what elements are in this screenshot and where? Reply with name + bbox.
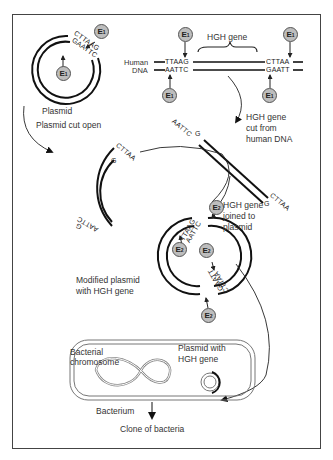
enzyme-e2-icon: E2 xyxy=(172,242,187,257)
enzyme-e2-icon: E2 xyxy=(209,200,224,215)
enzyme-e1-icon: E1 xyxy=(178,27,193,42)
label-hgh-joined-3: plasmid xyxy=(223,222,252,232)
open-top-b: G xyxy=(111,157,117,165)
label-modified-1: Modified plasmid xyxy=(76,275,140,285)
human-left-bottom: AATTC xyxy=(165,66,188,74)
label-hgh-joined-1: HGH gene xyxy=(223,200,263,210)
small-plasmid xyxy=(201,372,220,393)
label-hgh-gene: HGH gene xyxy=(207,32,247,42)
label-hgh-cut-2: cut from xyxy=(246,123,277,133)
enzyme-e2-icon: E2 xyxy=(201,308,216,323)
label-hgh-cut-1: HGH gene xyxy=(246,112,286,122)
frag-right-b: G xyxy=(264,200,270,208)
label-bact-chrom-2: chromosome xyxy=(70,357,119,367)
enzyme-e1-icon: E1 xyxy=(262,88,277,103)
enzyme-e1-icon: E1 xyxy=(56,66,71,81)
enzyme-e1-icon: E1 xyxy=(94,24,109,39)
label-plasmid-cut-open: Plasmid cut open xyxy=(36,120,101,130)
label-plasmid-hgh-2: HGH gene xyxy=(178,354,218,364)
label-modified-2: with HGH gene xyxy=(76,286,134,296)
label-bacterium: Bacterium xyxy=(96,406,134,416)
human-left-top: TTAAG xyxy=(165,58,189,66)
human-right-bottom: GAATT xyxy=(266,66,290,74)
enzyme-e1-icon: E1 xyxy=(283,27,298,42)
enzyme-e1-icon: E1 xyxy=(162,88,177,103)
hgh-brace xyxy=(198,42,257,52)
label-clone: Clone of bacteria xyxy=(120,424,184,434)
label-plasmid-hgh-1: Plasmid with xyxy=(178,343,226,353)
enzyme-e2-icon: E2 xyxy=(199,243,214,258)
label-bact-chrom-1: Bacterial xyxy=(70,347,103,357)
hgh-fragment xyxy=(199,140,268,203)
label-human-dna-2: DNA xyxy=(132,66,148,76)
human-right-top: CTTAA xyxy=(266,58,289,66)
label-hgh-joined-2: joined to xyxy=(223,211,255,221)
label-hgh-cut-3: human DNA xyxy=(246,134,292,144)
label-plasmid: Plasmid xyxy=(42,106,72,116)
frag-left-b: G xyxy=(195,130,201,138)
